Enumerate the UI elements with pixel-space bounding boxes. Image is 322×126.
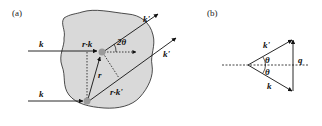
label-2theta: 2θ: [116, 37, 127, 47]
label-kprime-bottom: k': [163, 49, 171, 59]
label-r-dot-k: r·k: [82, 39, 93, 49]
scattering-diagram: (a) k k r·k r r·k' k' k' 2θ (b): [0, 0, 322, 126]
label-q: q: [298, 55, 303, 65]
label-kprime-top: k': [143, 14, 151, 24]
label-k-bottom: k: [39, 89, 44, 99]
label-kprime: k': [263, 40, 271, 50]
label-theta-top: θ: [265, 55, 270, 65]
scatterer-top: [99, 49, 106, 56]
label-r-dot-kprime: r·k': [110, 87, 123, 97]
label-r: r: [98, 70, 102, 80]
scatterer-bottom: [84, 98, 91, 105]
panel-a-label: (a): [12, 8, 22, 18]
label-theta-bottom: θ: [265, 67, 270, 77]
panel-b: (b) k' k θ θ q: [207, 8, 308, 91]
panel-b-label: (b): [207, 8, 218, 18]
label-k: k: [267, 81, 272, 91]
panel-a: (a) k k r·k r r·k' k' k' 2θ: [12, 8, 176, 108]
sample-blob: [61, 10, 154, 108]
label-k-top: k: [39, 39, 44, 49]
